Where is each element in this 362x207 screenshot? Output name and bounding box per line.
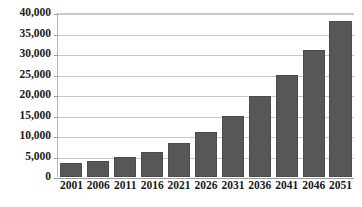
bar-slot: [327, 13, 354, 177]
bar-slot: [166, 13, 193, 177]
x-axis-label-2031: 2031: [219, 180, 246, 192]
x-axis-label-2026: 2026: [193, 180, 220, 192]
y-axis-label: 0: [3, 171, 51, 183]
y-axis-label: 10,000: [3, 130, 51, 142]
bar-slot: [58, 13, 85, 177]
bar-2016[interactable]: [141, 152, 163, 177]
y-axis-label: 15,000: [3, 110, 51, 122]
y-axis-label: 35,000: [3, 28, 51, 40]
x-axis-label-2046: 2046: [300, 180, 327, 192]
bar-2031[interactable]: [222, 116, 244, 178]
y-axis-label: 40,000: [3, 7, 51, 19]
y-axis-label: 5,000: [3, 151, 51, 163]
x-axis-label-2001: 2001: [58, 180, 85, 192]
bar-slot: [112, 13, 139, 177]
bar-slot: [300, 13, 327, 177]
bar-2041[interactable]: [276, 75, 298, 178]
bar-2046[interactable]: [303, 50, 325, 177]
bar-series: [58, 13, 354, 177]
bar-2001[interactable]: [60, 163, 82, 177]
bar-slot: [139, 13, 166, 177]
bar-slot: [193, 13, 220, 177]
bar-slot: [273, 13, 300, 177]
bar-2011[interactable]: [114, 157, 136, 177]
x-axis-label-2011: 2011: [112, 180, 139, 192]
bar-2006[interactable]: [87, 161, 109, 177]
x-axis-label-2016: 2016: [139, 180, 166, 192]
y-tick-mark: [54, 178, 58, 179]
bar-2036[interactable]: [249, 96, 271, 177]
bar-slot: [246, 13, 273, 177]
bar-chart: 2001200620112016202120262031203620412046…: [0, 0, 362, 207]
y-axis-label: 30,000: [3, 48, 51, 60]
y-axis-label: 20,000: [3, 89, 51, 101]
x-axis-tick-labels: 2001200620112016202120262031203620412046…: [58, 180, 354, 198]
x-axis-label-2041: 2041: [273, 180, 300, 192]
bar-slot: [219, 13, 246, 177]
y-axis-label: 25,000: [3, 69, 51, 81]
bar-2021[interactable]: [168, 143, 190, 177]
x-axis-label-2051: 2051: [327, 180, 354, 192]
bar-2026[interactable]: [195, 132, 217, 177]
bar-2051[interactable]: [329, 21, 351, 177]
x-axis-label-2006: 2006: [85, 180, 112, 192]
x-axis-label-2021: 2021: [166, 180, 193, 192]
x-axis-label-2036: 2036: [246, 180, 273, 192]
bar-slot: [85, 13, 112, 177]
